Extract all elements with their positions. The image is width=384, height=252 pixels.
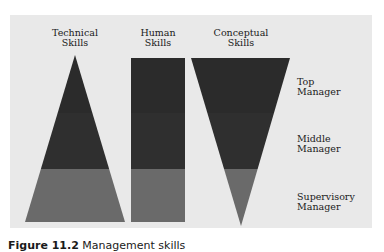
level-label-middle: Middle Manager — [297, 134, 340, 154]
caption-label: Figure 11.2 — [8, 239, 79, 252]
level-label-supervisory: Supervisory Manager — [297, 192, 355, 212]
conceptual-skills-triangle — [185, 55, 295, 229]
figure-caption: Figure 11.2 Management skills — [8, 240, 185, 252]
human-skills-rectangle — [131, 58, 185, 222]
level-label-top: Top Manager — [297, 77, 340, 97]
level-label-line: Manager — [297, 202, 355, 212]
caption-text: Management skills — [82, 239, 185, 252]
technical-skills-triangle — [20, 50, 130, 229]
level-label-line: Manager — [297, 144, 340, 154]
level-label-line: Manager — [297, 87, 340, 97]
